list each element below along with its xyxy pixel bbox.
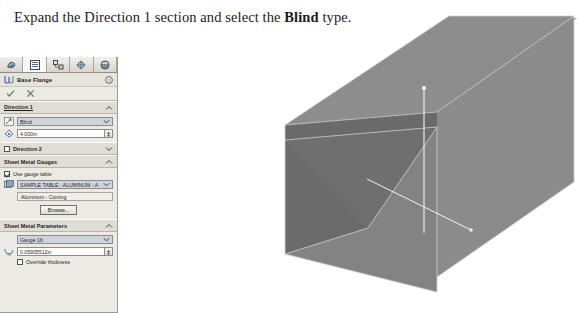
browse-button[interactable]: Browse...	[40, 205, 78, 215]
override-thickness-label: Override thickness	[26, 259, 70, 265]
help-question-icon[interactable]: ?	[105, 76, 113, 84]
check-icon[interactable]	[6, 89, 15, 98]
svg-text:T1: T1	[7, 253, 11, 256]
horizontal-axis-endpoint	[469, 228, 473, 232]
use-gauge-table-row[interactable]: Use gauge table	[4, 171, 113, 177]
depth-input[interactable]: 4.000in ▲▼	[17, 129, 113, 138]
section-header-sheet-metal-parameters[interactable]: Sheet Metal Parameters	[0, 219, 117, 232]
gauge-table-value: SAMPLE TABLE - ALUMINUM - A	[20, 182, 98, 188]
section-body-sheet-metal-parameters: Gauge 16 T1 0.05905512in ▲▼ Override thi…	[0, 232, 117, 272]
confirm-cancel-row[interactable]	[0, 87, 117, 101]
section-label-sheet-metal-parameters: Sheet Metal Parameters	[4, 223, 67, 229]
override-thickness-row[interactable]: Override thickness	[4, 259, 113, 265]
thickness-spinner[interactable]: ▲▼	[104, 247, 112, 256]
property-list-icon	[30, 60, 40, 70]
section-header-direction2[interactable]: Direction 2	[0, 142, 117, 155]
thickness-input[interactable]: 0.05905512in ▲▼	[17, 247, 113, 256]
property-manager-title-bar: Base Flange ?	[0, 73, 117, 87]
use-gauge-table-label: Use gauge table	[13, 171, 52, 177]
cancel-x-icon[interactable]	[26, 89, 35, 98]
gauge-value: Gauge 16	[20, 237, 43, 243]
section-body-direction1: Blind 4.000in ▲▼	[0, 114, 117, 142]
vertical-axis-endpoint	[422, 86, 426, 90]
gauge-table-dropdown[interactable]: SAMPLE TABLE - ALUMINUM - A	[17, 180, 113, 189]
gauge-table-row[interactable]: SAMPLE TABLE - ALUMINUM - A	[4, 180, 113, 189]
section-label-direction1: Direction 1	[4, 104, 33, 111]
material-value-field: Aluminum - Coining	[17, 192, 113, 201]
chevron-down-icon[interactable]	[101, 182, 110, 187]
depth-row[interactable]: 4.000in ▲▼	[4, 129, 113, 138]
chevron-up-icon[interactable]	[105, 105, 113, 111]
depth-dimension-icon	[4, 129, 14, 138]
gauge-dropdown[interactable]: Gauge 16	[17, 235, 113, 244]
gauge-row[interactable]: Gauge 16	[4, 235, 113, 244]
end-condition-icon	[4, 117, 14, 126]
chevron-down-icon[interactable]	[101, 237, 110, 242]
direction2-checkbox[interactable]	[4, 146, 10, 152]
dimxpert-manager-tab[interactable]	[70, 57, 93, 72]
gauge-table-icon	[4, 180, 14, 189]
material-row: Aluminum - Coining	[4, 192, 113, 201]
use-gauge-table-checkbox[interactable]	[4, 171, 10, 177]
section-header-direction1[interactable]: Direction 1	[0, 101, 117, 114]
browse-button-row[interactable]: Browse...	[4, 205, 113, 215]
configuration-manager-tab[interactable]	[47, 57, 70, 72]
property-manager-tab[interactable]	[23, 57, 46, 72]
depth-value: 4.000in	[20, 131, 37, 137]
override-thickness-checkbox[interactable]	[17, 259, 23, 265]
dimxpert-target-icon	[76, 60, 86, 70]
display-manager-tab[interactable]	[94, 57, 117, 72]
material-value: Aluminum - Coining	[21, 194, 66, 200]
panel-title: Base Flange	[17, 77, 52, 83]
end-condition-value: Blind	[20, 119, 32, 125]
chevron-down-icon[interactable]	[101, 119, 110, 124]
end-condition-row[interactable]: Blind	[4, 117, 113, 126]
thickness-row[interactable]: T1 0.05905512in ▲▼	[4, 247, 113, 256]
svg-text:?: ?	[108, 78, 111, 83]
thickness-value: 0.05905512in	[20, 249, 51, 255]
appearance-sphere-icon	[100, 60, 110, 70]
section-label-direction2: Direction 2	[13, 146, 42, 152]
feature-tree-icon	[6, 60, 17, 70]
3d-model-viewport[interactable]	[230, 8, 577, 313]
section-header-sheet-metal-gauges[interactable]: Sheet Metal Gauges	[0, 155, 117, 168]
section-body-sheet-metal-gauges: Use gauge table SAMPLE TABLE - ALUMINUM …	[0, 168, 117, 219]
depth-spinner[interactable]: ▲▼	[104, 129, 112, 138]
chevron-down-icon[interactable]	[105, 146, 113, 152]
property-manager-tab-strip[interactable]	[0, 57, 117, 73]
property-manager-panel[interactable]: Base Flange ? Direction 1 Blind	[0, 57, 118, 313]
u-channel-model	[230, 8, 577, 313]
base-flange-icon	[4, 75, 14, 84]
thickness-icon: T1	[4, 247, 14, 256]
end-condition-dropdown[interactable]: Blind	[17, 117, 113, 126]
chevron-up-icon[interactable]	[105, 159, 113, 165]
model-shading	[285, 16, 574, 292]
configuration-icon	[53, 60, 64, 70]
feature-manager-tab[interactable]	[0, 57, 23, 72]
chevron-up-icon[interactable]	[105, 223, 113, 229]
section-label-sheet-metal-gauges: Sheet Metal Gauges	[4, 159, 57, 165]
